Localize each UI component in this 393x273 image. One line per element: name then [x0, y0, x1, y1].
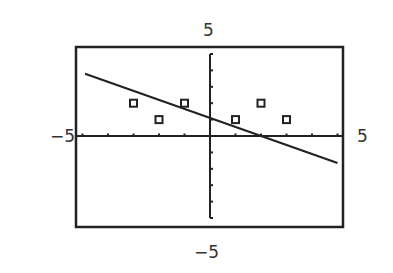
- data-point-marker: [283, 116, 290, 123]
- data-point-marker: [130, 100, 137, 107]
- data-point-marker: [156, 116, 163, 123]
- data-point-marker: [258, 100, 265, 107]
- data-point-marker: [232, 116, 239, 123]
- data-point-marker: [181, 100, 188, 107]
- graph-screen: [0, 0, 393, 273]
